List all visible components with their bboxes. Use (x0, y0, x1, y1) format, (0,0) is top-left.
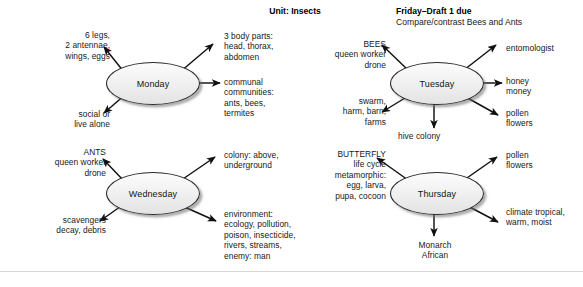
branch-thursday-climate: climate tropical, warm, moist (506, 207, 583, 228)
node-wednesday[interactable]: Wednesday (106, 172, 200, 215)
node-thursday-label: Thursday (418, 189, 456, 199)
branch-thursday-butterfly: BUTTERFLY life cycle metamorphic: egg, l… (290, 149, 386, 201)
branch-tuesday-hive: hive colony (398, 131, 478, 141)
branch-tuesday-swarm: swarm, harm, barn, farms (300, 96, 386, 127)
branch-thursday-monarch: Monarch African (396, 240, 474, 261)
node-wednesday-label: Wednesday (129, 189, 177, 199)
insect-unit-mind-map: Unit: Insects Friday–Draft 1 due Compare… (0, 0, 583, 287)
branch-tuesday-bees: BEES queen worker drone (300, 39, 386, 70)
branch-tuesday-pollen: pollen flowers (506, 108, 582, 129)
node-tuesday-label: Tuesday (420, 79, 455, 89)
branch-wednesday-environment: environment: ecology, pollution, poison,… (224, 209, 324, 261)
branch-wednesday-scavengers: scavengers decay, debris (18, 215, 106, 236)
branch-tuesday-honey: honey money (506, 76, 582, 97)
branch-monday-social: social or live alone (28, 109, 110, 130)
branch-monday-traits: 6 legs, 2 antennae, wings, eggs (22, 30, 110, 61)
node-monday[interactable]: Monday (106, 62, 200, 105)
node-tuesday[interactable]: Tuesday (390, 62, 484, 105)
branch-wednesday-ants: ANTS queen worker drone (18, 147, 106, 178)
node-monday-label: Monday (137, 79, 170, 89)
friday-draft-title: Friday–Draft 1 due (396, 6, 576, 17)
friday-draft-subtitle: Compare/contrast Bees and Ants (396, 17, 581, 28)
bottom-divider (0, 271, 583, 272)
unit-title: Unit: Insects (235, 6, 355, 17)
branch-tuesday-entomologist: entomologist (506, 43, 582, 53)
branch-thursday-pollen: pollen flowers (506, 150, 582, 171)
tuesday-to-entomologist (464, 45, 496, 70)
thursday-to-pollen (464, 157, 497, 180)
node-thursday[interactable]: Thursday (390, 172, 484, 215)
